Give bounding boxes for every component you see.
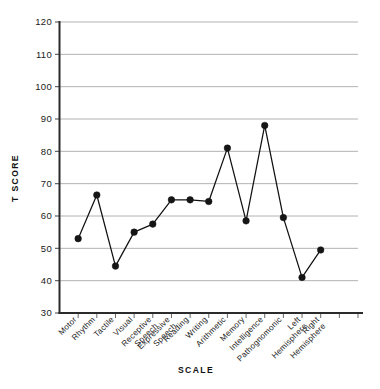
- y-axis-tick-label: 70: [41, 178, 52, 189]
- y-axis-tick-label: 80: [41, 146, 52, 157]
- y-axis-tick-label: 40: [41, 275, 52, 286]
- data-point-marker: [187, 197, 194, 204]
- y-axis-tick-label: 50: [41, 243, 52, 254]
- data-point-marker: [224, 145, 231, 152]
- data-series-line: [78, 125, 321, 277]
- data-point-marker: [317, 247, 324, 254]
- data-point-marker: [205, 198, 212, 205]
- data-point-marker: [168, 197, 175, 204]
- y-axis-tick-label: 110: [36, 49, 52, 60]
- x-axis-labels-group: MotorRhythmTactileVisualReceptiveSpeechE…: [57, 315, 328, 364]
- data-point-marker: [261, 122, 268, 129]
- data-point-marker: [299, 274, 306, 281]
- y-axis-title: T SCORE: [10, 154, 20, 202]
- chart-container: 30405060708090100110120 MotorRhythmTacti…: [0, 0, 380, 389]
- y-axis-labels-group: 30405060708090100110120: [35, 16, 52, 318]
- data-point-marker: [243, 218, 250, 225]
- line-chart: 30405060708090100110120 MotorRhythmTacti…: [0, 0, 380, 389]
- x-axis-tick-label: Tactile: [92, 315, 116, 339]
- data-point-marker: [131, 229, 138, 236]
- y-axis-tick-label: 100: [35, 81, 52, 92]
- y-axis-tick-label: 60: [41, 210, 52, 221]
- data-markers-group: [75, 122, 324, 281]
- x-axis-title: SCALE: [178, 365, 214, 375]
- data-point-marker: [75, 235, 82, 242]
- y-axis-tick-label: 30: [41, 307, 52, 318]
- y-axis-tick-label: 90: [41, 113, 52, 124]
- data-point-marker: [149, 221, 156, 228]
- y-axis-tick-label: 120: [35, 16, 52, 27]
- data-point-marker: [112, 263, 119, 270]
- gridlines-group: [60, 22, 359, 313]
- data-point-marker: [280, 214, 287, 221]
- data-point-marker: [94, 192, 101, 199]
- axis-lines-group: [60, 22, 363, 313]
